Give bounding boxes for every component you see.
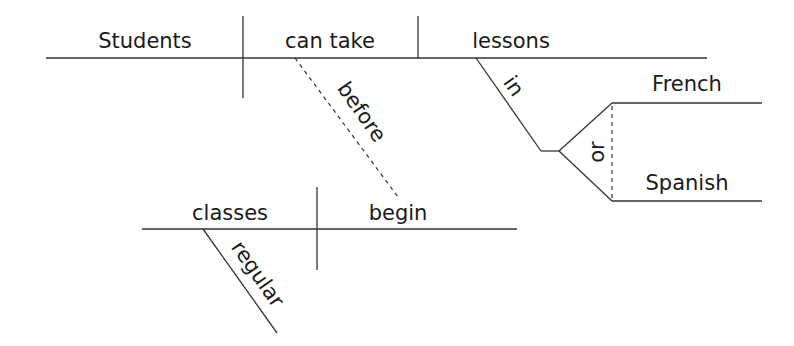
direct-object-word: lessons	[472, 29, 550, 53]
verb-word: can take	[285, 29, 375, 53]
sentence-diagram: Students can take lessons in or French S…	[0, 0, 794, 346]
subordinate-link: before	[295, 58, 398, 197]
object-french: French	[652, 72, 722, 96]
object-spanish: Spanish	[646, 171, 729, 195]
subordinate-verb-word: begin	[369, 201, 428, 225]
subordinate-clause: classes begin regular	[142, 187, 517, 333]
prepositional-phrase: in or French Spanish	[476, 58, 762, 201]
subordinate-subject-word: classes	[192, 201, 268, 225]
subordinating-conjunction-word: before	[333, 77, 391, 146]
subject-word: Students	[98, 29, 192, 53]
conjunction-word: or	[585, 141, 609, 163]
preposition-slant	[476, 58, 541, 151]
main-clause: Students can take lessons	[46, 16, 707, 98]
